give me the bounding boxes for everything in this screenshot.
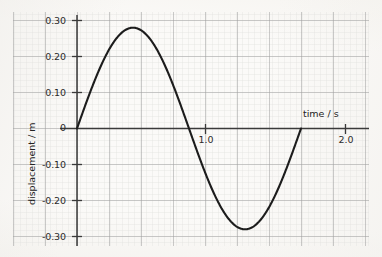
y-tick-label-1: 0.20 xyxy=(32,51,66,62)
x-tick-label-2: 2.0 xyxy=(334,134,358,145)
y-axis-title: displacement / m xyxy=(26,122,37,205)
x-axis-title: time / s xyxy=(303,108,339,119)
graph-figure: 0.30 0.20 0.10 0 -0.10 -0.20 -0.30 1.0 2… xyxy=(0,0,382,257)
x-tick-label-1: 1.0 xyxy=(194,134,218,145)
y-tick-label-2: 0.10 xyxy=(32,87,66,98)
y-tick-label-3: 0 xyxy=(32,122,66,133)
y-tick-label-0: 0.30 xyxy=(32,15,66,26)
y-tick-label-6: -0.30 xyxy=(28,231,66,242)
